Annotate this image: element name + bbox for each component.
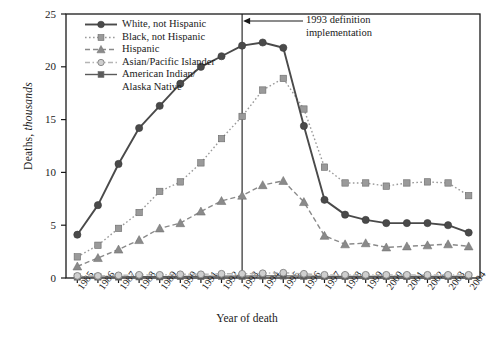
- data-point-marker: [341, 240, 350, 248]
- series-1: [74, 75, 472, 260]
- data-point-marker: [177, 271, 184, 278]
- data-point-marker: [465, 229, 472, 236]
- data-point-marker: [300, 122, 307, 129]
- data-point-marker: [465, 192, 471, 198]
- data-point-marker: [279, 176, 288, 184]
- data-point-marker: [362, 216, 369, 223]
- data-point-marker: [259, 39, 266, 46]
- data-point-marker: [177, 179, 183, 185]
- data-point-marker: [135, 236, 144, 244]
- data-point-marker: [341, 211, 348, 218]
- data-point-marker: [155, 224, 164, 232]
- data-point-marker: [424, 219, 431, 226]
- data-point-marker: [74, 254, 80, 260]
- legend-label: Black, not Hispanic: [118, 31, 205, 44]
- legend: White, not HispanicBlack, not HispanicHi…: [84, 18, 215, 94]
- data-point-marker: [94, 202, 101, 209]
- legend-swatch: [84, 31, 118, 44]
- data-point-marker: [361, 239, 370, 247]
- data-point-marker: [280, 44, 287, 51]
- data-point-marker: [238, 191, 247, 199]
- data-point-marker: [198, 160, 204, 166]
- chart-figure: Deaths, thousands Year of death 05101520…: [0, 0, 494, 338]
- data-point-marker: [218, 53, 225, 60]
- data-point-marker: [280, 75, 286, 81]
- data-point-marker: [383, 271, 390, 278]
- data-point-marker: [321, 164, 327, 170]
- data-point-marker: [98, 72, 104, 78]
- legend-label-continued: Alaska Native: [84, 81, 215, 94]
- legend-item-1[interactable]: Black, not Hispanic: [84, 31, 215, 44]
- data-point-marker: [218, 270, 225, 277]
- data-point-marker: [445, 180, 451, 186]
- data-point-marker: [403, 219, 410, 226]
- data-point-marker: [98, 21, 105, 28]
- annotation-line-2: implementation: [306, 27, 372, 40]
- data-point-marker: [115, 272, 122, 279]
- data-point-marker: [465, 271, 472, 278]
- data-point-marker: [424, 179, 430, 185]
- data-point-marker: [114, 245, 123, 253]
- data-point-marker: [301, 106, 307, 112]
- data-point-marker: [300, 270, 307, 277]
- legend-item-2[interactable]: Hispanic: [84, 43, 215, 56]
- legend-swatch: [84, 56, 118, 69]
- data-point-marker: [115, 225, 121, 231]
- data-point-marker: [95, 242, 101, 248]
- data-point-marker: [95, 272, 102, 279]
- data-point-marker: [74, 231, 81, 238]
- data-point-marker: [74, 272, 81, 279]
- legend-item-4[interactable]: American Indian/: [84, 68, 215, 81]
- data-point-marker: [73, 262, 82, 270]
- data-point-marker: [383, 183, 389, 189]
- data-point-marker: [383, 219, 390, 226]
- legend-item-0[interactable]: White, not Hispanic: [84, 18, 215, 31]
- data-point-marker: [402, 242, 411, 250]
- data-point-marker: [115, 160, 122, 167]
- data-point-marker: [259, 270, 266, 277]
- data-point-marker: [136, 209, 142, 215]
- legend-item-3[interactable]: Asian/Pacific Islander: [84, 56, 215, 69]
- data-point-marker: [94, 254, 103, 262]
- data-point-marker: [342, 180, 348, 186]
- annotation-line-1: 1993 definition: [306, 14, 372, 27]
- data-point-marker: [321, 271, 328, 278]
- data-point-marker: [403, 271, 410, 278]
- data-point-marker: [239, 270, 246, 277]
- data-point-marker: [404, 180, 410, 186]
- legend-label: American Indian/: [118, 68, 196, 81]
- data-point-marker: [320, 231, 329, 239]
- data-point-marker: [445, 271, 452, 278]
- data-point-marker: [444, 222, 451, 229]
- data-point-marker: [362, 271, 369, 278]
- data-point-marker: [156, 271, 163, 278]
- data-point-marker: [218, 135, 224, 141]
- data-point-marker: [98, 34, 104, 40]
- data-point-marker: [362, 180, 368, 186]
- data-point-marker: [424, 271, 431, 278]
- legend-label: Asian/Pacific Islander: [118, 56, 215, 69]
- data-point-marker: [176, 219, 185, 227]
- data-point-marker: [321, 196, 328, 203]
- data-point-marker: [156, 102, 163, 109]
- data-point-marker: [260, 87, 266, 93]
- legend-label: White, not Hispanic: [118, 18, 206, 31]
- legend-swatch: [84, 43, 118, 56]
- annotation-1993-definition: 1993 definition implementation: [306, 14, 372, 39]
- data-point-marker: [157, 188, 163, 194]
- data-point-marker: [342, 271, 349, 278]
- data-point-marker: [136, 271, 143, 278]
- data-point-marker: [239, 113, 245, 119]
- data-point-marker: [239, 42, 246, 49]
- data-point-marker: [258, 181, 267, 189]
- plot-area: [0, 0, 494, 338]
- data-point-marker: [98, 59, 104, 65]
- data-point-marker: [280, 269, 287, 276]
- series-4: [74, 273, 472, 280]
- legend-swatch: [84, 68, 118, 81]
- legend-swatch: [84, 18, 118, 31]
- data-point-marker: [198, 271, 205, 278]
- data-point-marker: [136, 124, 143, 131]
- data-point-marker: [197, 207, 206, 215]
- legend-label: Hispanic: [118, 43, 159, 56]
